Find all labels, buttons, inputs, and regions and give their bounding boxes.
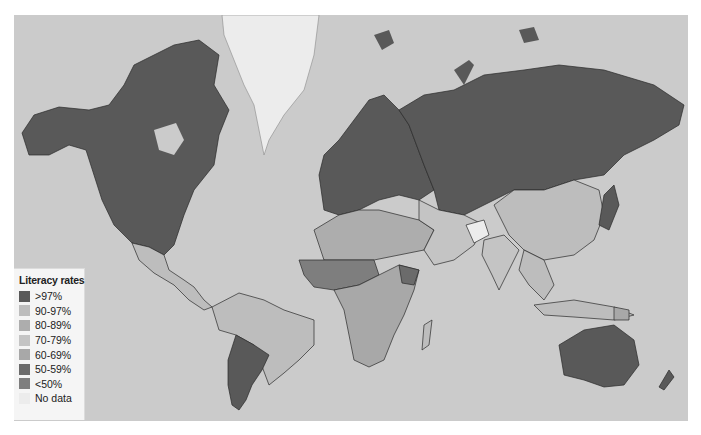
legend-item: 80-89% (19, 318, 84, 333)
region-new-zealand (659, 370, 674, 390)
legend-item: 70-79% (19, 333, 84, 348)
region-japan (599, 185, 619, 230)
legend-swatch (19, 335, 30, 346)
legend-item: >97% (19, 289, 84, 304)
region-australia (559, 325, 639, 387)
legend-item: 60-69% (19, 347, 84, 362)
legend-label: <50% (35, 378, 62, 390)
region-mexico-central-america (132, 243, 212, 310)
legend-swatch (19, 349, 30, 360)
region-north-africa (314, 210, 434, 260)
legend-label: 80-89% (35, 319, 71, 331)
region-south-america (212, 293, 314, 385)
legend-title: Literacy rates (19, 274, 84, 286)
legend-item: 90-97% (19, 304, 84, 319)
legend-label: 90-97% (35, 305, 71, 317)
legend-swatch (19, 364, 30, 375)
legend-label: 50-59% (35, 363, 71, 375)
legend-swatch (19, 291, 30, 302)
legend-item: 50-59% (19, 362, 84, 377)
legend-swatch (19, 393, 30, 404)
region-north-america (22, 40, 229, 255)
world-map (14, 15, 688, 421)
map-canvas (14, 15, 688, 421)
legend-swatch (19, 320, 30, 331)
region-greenland (222, 15, 319, 155)
legend-item: No data (19, 391, 84, 406)
legend-label: >97% (35, 290, 62, 302)
legend-swatch (19, 378, 30, 389)
legend-label: No data (35, 392, 72, 404)
region-india (482, 235, 519, 290)
region-madagascar (422, 320, 432, 350)
legend-item: <50% (19, 377, 84, 392)
legend-swatch (19, 305, 30, 316)
legend-label: 70-79% (35, 334, 71, 346)
legend: Literacy rates >97% 90-97% 80-89% 70-79%… (14, 268, 85, 420)
region-papua-new-guinea (614, 307, 629, 320)
legend-label: 60-69% (35, 349, 71, 361)
